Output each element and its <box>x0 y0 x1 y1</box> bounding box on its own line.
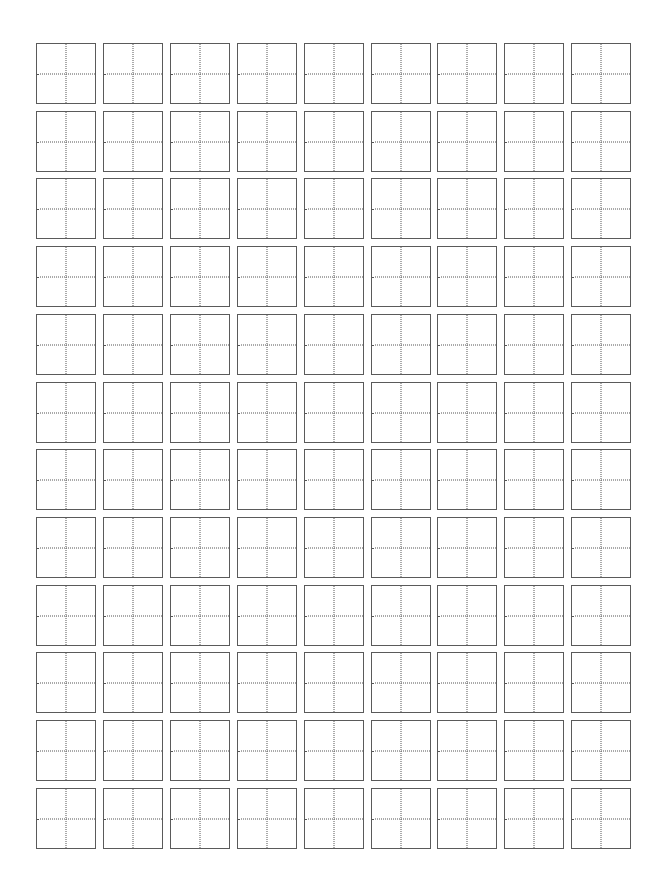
horizontal-guide-line <box>438 750 496 751</box>
grid-cell <box>304 517 364 578</box>
grid-cell <box>170 720 230 781</box>
grid-cell <box>237 449 297 510</box>
grid-cell <box>170 449 230 510</box>
horizontal-guide-line <box>572 344 630 345</box>
grid-cell <box>36 585 96 646</box>
horizontal-guide-line <box>37 479 95 480</box>
horizontal-guide-line <box>37 615 95 616</box>
horizontal-guide-line <box>572 479 630 480</box>
grid-cell <box>304 585 364 646</box>
horizontal-guide-line <box>171 412 229 413</box>
horizontal-guide-line <box>104 141 162 142</box>
horizontal-guide-line <box>238 750 296 751</box>
horizontal-guide-line <box>505 141 563 142</box>
grid-cell <box>103 43 163 104</box>
grid-cell <box>437 517 497 578</box>
grid-cell <box>571 585 631 646</box>
horizontal-guide-line <box>104 479 162 480</box>
horizontal-guide-line <box>372 615 430 616</box>
horizontal-guide-line <box>372 682 430 683</box>
grid-cell <box>571 382 631 443</box>
horizontal-guide-line <box>104 818 162 819</box>
horizontal-guide-line <box>238 479 296 480</box>
horizontal-guide-line <box>171 208 229 209</box>
horizontal-guide-line <box>37 412 95 413</box>
grid-cell <box>571 111 631 172</box>
grid-cell <box>304 43 364 104</box>
horizontal-guide-line <box>104 750 162 751</box>
grid-cell <box>437 652 497 713</box>
grid-cell <box>304 720 364 781</box>
horizontal-guide-line <box>37 818 95 819</box>
grid-cell <box>103 449 163 510</box>
grid-cell <box>571 246 631 307</box>
grid-cell <box>504 652 564 713</box>
grid-cell <box>571 652 631 713</box>
horizontal-guide-line <box>37 141 95 142</box>
grid-cell <box>437 585 497 646</box>
grid-cell <box>437 449 497 510</box>
horizontal-guide-line <box>372 73 430 74</box>
horizontal-guide-line <box>305 276 363 277</box>
grid-cell <box>170 246 230 307</box>
grid-cell <box>36 43 96 104</box>
horizontal-guide-line <box>438 208 496 209</box>
grid-cell <box>304 449 364 510</box>
horizontal-guide-line <box>438 344 496 345</box>
grid-cell <box>170 382 230 443</box>
grid-cell <box>36 246 96 307</box>
grid-cell <box>437 382 497 443</box>
horizontal-guide-line <box>37 547 95 548</box>
horizontal-guide-line <box>572 818 630 819</box>
grid-cell <box>504 382 564 443</box>
grid-cell <box>371 43 431 104</box>
horizontal-guide-line <box>238 818 296 819</box>
horizontal-guide-line <box>37 750 95 751</box>
grid-cell <box>504 585 564 646</box>
horizontal-guide-line <box>505 276 563 277</box>
horizontal-guide-line <box>372 141 430 142</box>
horizontal-guide-line <box>305 412 363 413</box>
grid-cell <box>371 788 431 849</box>
grid-cell <box>237 652 297 713</box>
horizontal-guide-line <box>438 141 496 142</box>
horizontal-guide-line <box>171 818 229 819</box>
horizontal-guide-line <box>305 682 363 683</box>
horizontal-guide-line <box>372 276 430 277</box>
horizontal-guide-line <box>171 682 229 683</box>
grid-cell <box>36 449 96 510</box>
grid-cell <box>304 652 364 713</box>
horizontal-guide-line <box>171 276 229 277</box>
grid-cell <box>237 111 297 172</box>
grid-cell <box>371 111 431 172</box>
horizontal-guide-line <box>572 73 630 74</box>
grid-cell <box>36 788 96 849</box>
horizontal-guide-line <box>305 547 363 548</box>
horizontal-guide-line <box>37 208 95 209</box>
horizontal-guide-line <box>171 615 229 616</box>
grid-cell <box>170 788 230 849</box>
grid-cell <box>437 314 497 375</box>
horizontal-guide-line <box>104 682 162 683</box>
horizontal-guide-line <box>372 208 430 209</box>
grid-cell <box>237 382 297 443</box>
grid-cell <box>170 652 230 713</box>
grid-cell <box>504 788 564 849</box>
grid-cell <box>103 178 163 239</box>
horizontal-guide-line <box>505 615 563 616</box>
grid-cell <box>571 314 631 375</box>
grid-cell <box>103 720 163 781</box>
grid-cell <box>237 788 297 849</box>
horizontal-guide-line <box>572 208 630 209</box>
grid-cell <box>371 246 431 307</box>
grid-cell <box>504 246 564 307</box>
horizontal-guide-line <box>305 818 363 819</box>
grid-cell <box>36 111 96 172</box>
grid-cell <box>371 517 431 578</box>
horizontal-guide-line <box>238 344 296 345</box>
horizontal-guide-line <box>104 344 162 345</box>
horizontal-guide-line <box>305 73 363 74</box>
grid-cell <box>571 43 631 104</box>
grid-cell <box>304 314 364 375</box>
horizontal-guide-line <box>37 344 95 345</box>
